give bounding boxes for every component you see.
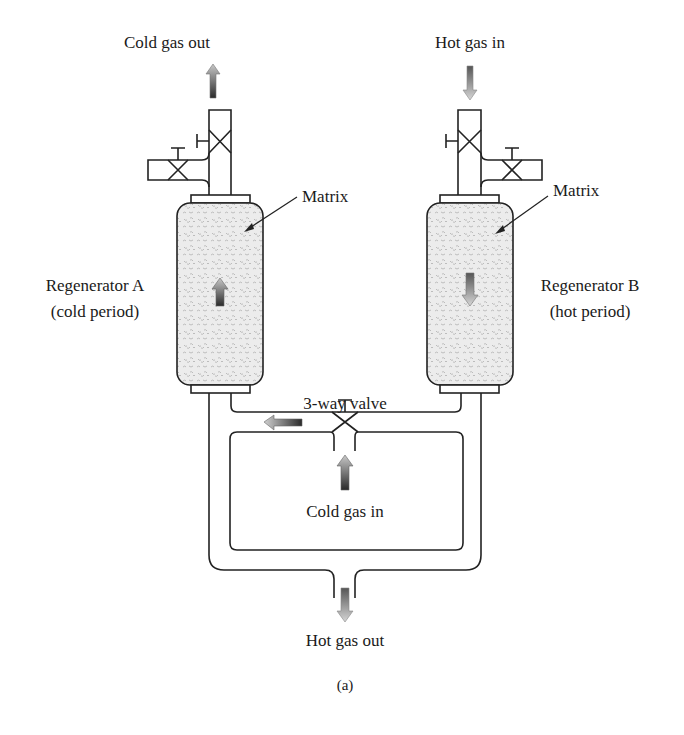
regenerator-b (427, 195, 513, 393)
matrix-b-label: Matrix (553, 181, 600, 200)
hot-gas-in-label: Hot gas in (435, 33, 505, 52)
lower-piping (209, 393, 481, 598)
cold-gas-in-label: Cold gas in (306, 502, 384, 521)
hot-gas-in-arrow-icon (463, 66, 477, 100)
regenerator-a-name-label: Regenerator A (46, 276, 145, 295)
regenerator-a (177, 195, 263, 393)
cold-gas-in-arrow-icon (337, 455, 353, 490)
figure-caption: (a) (337, 677, 354, 694)
regenerator-b-name-label: Regenerator B (541, 276, 640, 295)
cold-gas-out-label: Cold gas out (124, 33, 210, 52)
cold-gas-out-arrow-icon (206, 64, 220, 98)
flow-left-arrow-icon (264, 415, 302, 430)
hot-gas-out-arrow-icon (337, 588, 353, 622)
matrix-a-label: Matrix (302, 187, 349, 206)
regenerator-a-top-piping (148, 110, 231, 195)
regenerator-b-top-piping (446, 110, 542, 195)
regenerator-b-period-label: (hot period) (550, 302, 631, 321)
hot-gas-out-label: Hot gas out (306, 631, 385, 650)
regenerator-diagram: Cold gas out Hot gas in M (0, 0, 684, 735)
regenerator-a-period-label: (cold period) (51, 302, 139, 321)
